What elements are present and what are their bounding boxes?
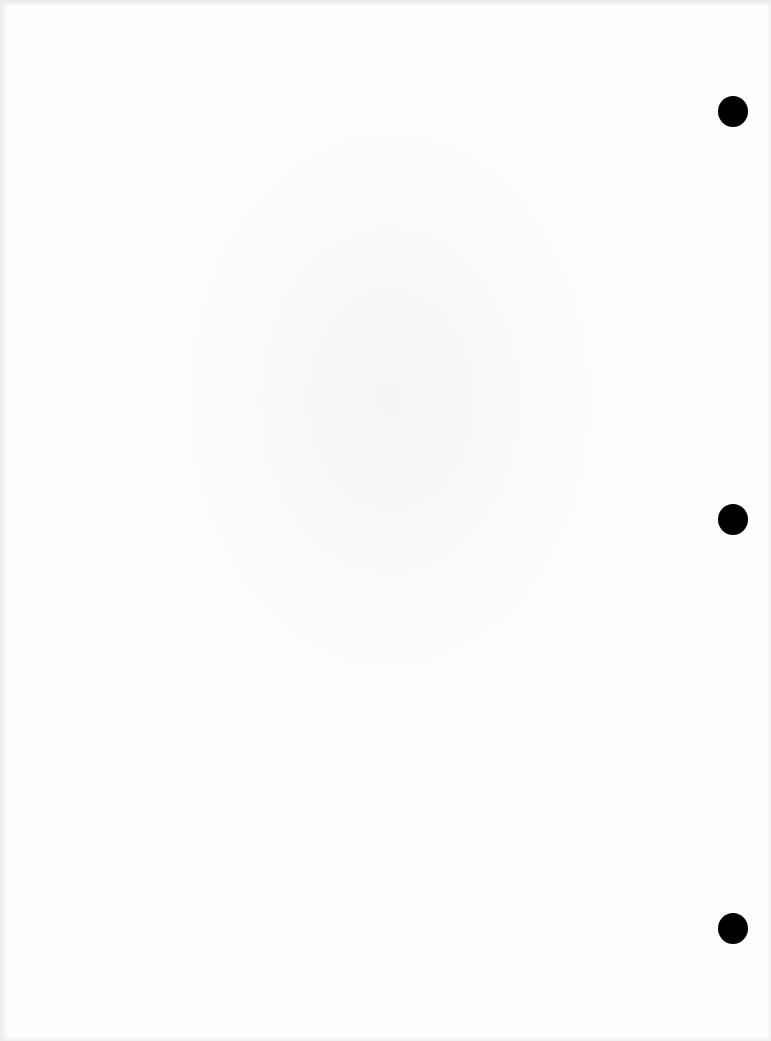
scan-edge-left	[0, 0, 8, 1041]
reverse-side-show-through	[180, 120, 600, 680]
punch-hole-bottom	[718, 913, 748, 944]
scan-edge-bottom	[0, 1037, 771, 1041]
scan-edge-top	[0, 0, 771, 6]
scan-edge-right	[767, 0, 771, 1041]
punch-hole-top	[718, 96, 748, 127]
scanned-page	[0, 0, 771, 1041]
punch-hole-middle	[718, 504, 748, 535]
